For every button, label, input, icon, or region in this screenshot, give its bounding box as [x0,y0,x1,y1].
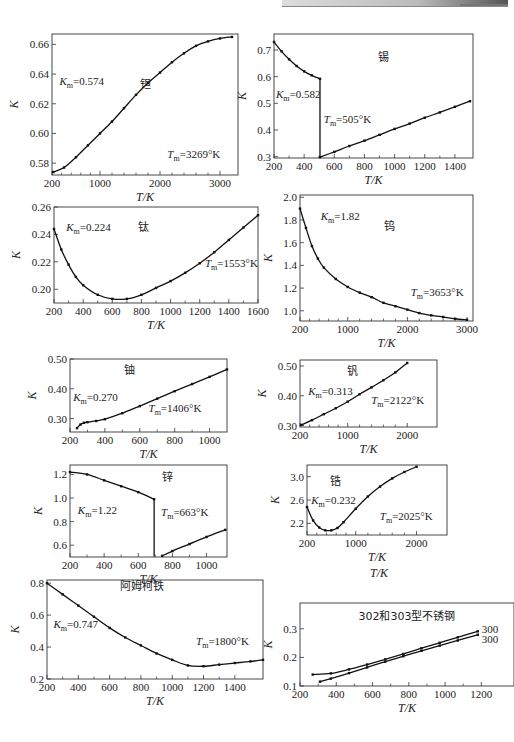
data-point [324,529,326,531]
data-point [394,305,396,307]
material-label: 钽 [140,78,151,91]
y-tick-label: 1.0 [283,305,297,317]
data-point [124,636,126,638]
data-curve [70,472,154,499]
x-tick-label: 2000 [149,177,172,189]
y-axis-title: K [268,495,282,505]
x-tick-label: 1400 [224,681,247,693]
chart-tin: 2004006008001000120014000.30.40.50.60.7T… [274,34,473,196]
data-point [121,412,123,414]
km-annotation: Km=1.22 [77,504,117,519]
tm-annotation: Tm=505°K [324,113,371,128]
chart-zinc: 20040060080010000.60.81.01.2T/KK锌Km=1.22… [70,465,227,595]
data-point [123,107,125,109]
x-tick-label: 600 [326,160,343,172]
data-curve [313,631,478,674]
data-point [335,278,337,280]
data-point [347,286,349,288]
data-point [219,37,221,39]
y-tick-label: 2.0 [283,191,297,203]
data-point [330,677,332,679]
data-point [108,627,110,629]
material-label: 钨 [384,220,395,233]
data-point [104,418,106,420]
data-point [161,555,163,557]
data-point [318,526,320,528]
data-point [354,508,356,510]
data-point [195,45,197,47]
data-point [295,65,297,67]
data-point [477,630,479,632]
data-point [69,471,71,473]
data-point [53,228,55,230]
y-axis-title: K [261,253,275,263]
data-point [454,106,456,108]
material-label: 锌 [162,470,173,484]
data-point [317,257,319,259]
data-point [213,251,215,253]
data-point [348,145,350,147]
data-point [438,642,440,644]
data-point [336,527,338,529]
x-tick-label: 1000 [89,177,112,189]
x-tick-label: 1400 [218,305,241,317]
y-tick-label: 0.1 [283,680,297,692]
data-point [306,506,308,508]
x-tick-label: 800 [133,681,150,693]
y-tick-label: 0.2 [30,673,44,685]
data-point [171,659,173,661]
tm-annotation: Tm=663°K [161,506,208,521]
y-tick-label: 0.3 [257,151,271,163]
y-tick-label: 0.40 [48,383,68,395]
x-axis-title: T/K [377,336,396,350]
data-point [60,248,62,250]
data-point [155,652,157,654]
data-point [342,521,344,523]
data-point [228,239,230,241]
data-point [249,660,251,662]
data-point [67,263,69,265]
data-point [184,272,186,274]
data-point [86,473,88,475]
x-tick-label: 200 [299,537,316,549]
data-point [335,407,337,409]
data-point [379,485,381,487]
data-point [367,495,369,497]
x-tick-label: 2000 [396,323,419,335]
chart-vanadium: 200100020000.300.400.50T/KK钒Km=0.313Tm=2… [300,360,437,465]
data-point [311,245,313,247]
y-tick-label: 0.40 [278,390,298,402]
x-tick-label: 1000 [337,323,360,335]
data-point [319,156,321,158]
x-tick-label: 1000 [196,559,219,571]
data-point [366,666,368,668]
km-annotation: Km=0.224 [65,221,111,236]
data-point [140,294,142,296]
x-tick-label: 400 [75,305,92,317]
data-curve [320,635,478,682]
data-point [358,291,360,293]
y-axis-title: K [25,391,39,401]
data-point [403,471,405,473]
data-point [82,284,84,286]
tm-annotation: Tm=1800°K [196,635,249,650]
data-point [111,120,113,122]
x-tick-label: 400 [70,681,87,693]
data-point [466,319,468,321]
y-tick-label: 1.0 [53,492,67,504]
data-point [75,156,77,158]
data-point [384,660,386,662]
x-tick-label: 1000 [384,160,407,172]
x-tick-label: 2000 [406,537,429,549]
data-point [330,672,332,674]
data-point [120,485,122,487]
data-point [439,111,441,113]
data-point [137,491,139,493]
y-axis-title: K [261,640,275,650]
data-point [312,519,314,521]
x-tick-label: 600 [101,681,118,693]
data-point [319,681,321,683]
y-axis-title: K [9,250,23,260]
data-point [187,664,189,666]
data-point [382,302,384,304]
